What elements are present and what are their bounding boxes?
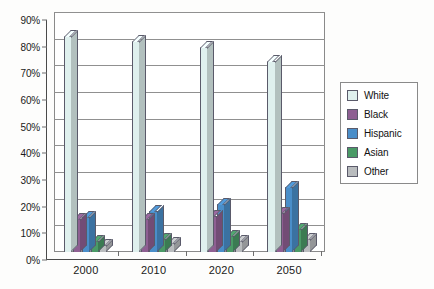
bar-slot	[167, 12, 175, 252]
bar-side-face	[216, 210, 223, 252]
bar-side-face	[157, 205, 164, 252]
bar-slot	[99, 12, 107, 252]
bar-slot	[267, 12, 275, 252]
bar-group	[132, 12, 175, 252]
bar-group	[200, 12, 243, 252]
legend-label: Black	[364, 109, 388, 120]
y-tick-mark	[42, 260, 47, 261]
legend-swatch-icon	[347, 147, 358, 158]
legend-item-asian[interactable]: Asian	[347, 146, 412, 158]
bar-white-2000	[64, 36, 72, 252]
x-tick-mark	[186, 251, 187, 256]
bar-side-face	[148, 213, 155, 252]
bar-slot	[303, 12, 311, 252]
x-tick-mark	[118, 251, 119, 256]
bar-white-2020	[200, 47, 208, 252]
x-axis-label-2050: 2050	[276, 264, 301, 276]
legend-item-white[interactable]: White	[347, 89, 412, 101]
bar-group	[64, 12, 107, 252]
x-axis-label-2010: 2010	[141, 264, 166, 276]
legend-label: White	[364, 90, 389, 101]
chart-page: 0%10%20%30%40%50%60%70%80%90% 2000201020…	[0, 0, 434, 289]
legend-swatch-icon	[347, 109, 358, 120]
bar-side-face	[292, 181, 299, 252]
legend-label: Asian	[364, 147, 389, 158]
bar-side-face	[275, 55, 282, 252]
bar-side-face	[207, 41, 214, 252]
x-tick-mark	[321, 251, 322, 256]
legend-item-hispanic[interactable]: Hispanic	[347, 127, 412, 139]
bar-white-2010	[132, 41, 140, 252]
x-axis-label-2020: 2020	[209, 264, 234, 276]
plot-area: 0%10%20%30%40%50%60%70%80%90%	[46, 12, 325, 260]
bar-side-face	[224, 198, 231, 252]
bar-slot	[235, 12, 243, 252]
bar-slot	[132, 12, 140, 252]
bar-side-face	[139, 35, 146, 252]
legend-swatch-icon	[347, 128, 358, 139]
bar-side-face	[80, 213, 87, 252]
legend-item-black[interactable]: Black	[347, 108, 412, 120]
bar-group	[267, 12, 310, 252]
bar-side-face	[283, 207, 290, 252]
legend-swatch-icon	[347, 166, 358, 177]
bar-slot	[200, 12, 208, 252]
bar-slot	[64, 12, 72, 252]
x-axis-line	[46, 259, 316, 260]
legend-swatch-icon	[347, 90, 358, 101]
legend-item-other[interactable]: Other	[347, 165, 412, 177]
legend-label: Hispanic	[364, 128, 402, 139]
x-axis-label-2000: 2000	[73, 264, 98, 276]
bar-groups	[46, 12, 325, 252]
bar-side-face	[71, 30, 78, 252]
chart-legend: WhiteBlackHispanicAsianOther	[340, 82, 418, 184]
legend-label: Other	[364, 166, 389, 177]
x-tick-mark	[253, 251, 254, 256]
bar-white-2050	[267, 61, 275, 252]
